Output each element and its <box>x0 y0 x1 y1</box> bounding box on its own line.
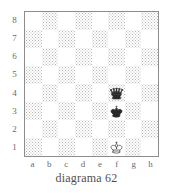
square-h1 <box>141 138 158 156</box>
square-g6 <box>125 48 142 66</box>
square-b8 <box>42 12 59 30</box>
square-g5 <box>125 66 142 84</box>
square-b5 <box>42 66 59 84</box>
square-c3 <box>58 102 75 120</box>
file-label-b: b <box>41 158 58 170</box>
chessboard <box>24 11 159 157</box>
file-label-f: f <box>108 158 125 170</box>
rank-label-column: 8 7 6 5 4 3 2 1 <box>7 11 22 157</box>
square-h8 <box>141 12 158 30</box>
square-c2 <box>58 120 75 138</box>
square-f7 <box>108 30 125 48</box>
square-f5 <box>108 66 125 84</box>
square-c1 <box>58 138 75 156</box>
square-g2 <box>125 120 142 138</box>
square-f2 <box>108 120 125 138</box>
square-c4 <box>58 84 75 102</box>
square-h4 <box>141 84 158 102</box>
rank-label-3: 3 <box>7 102 22 120</box>
rank-label-1: 1 <box>7 139 22 157</box>
white-king-icon <box>108 138 125 156</box>
square-g1 <box>125 138 142 156</box>
rank-label-4: 4 <box>7 84 22 102</box>
square-a7 <box>25 30 42 48</box>
square-d8 <box>75 12 92 30</box>
square-b3 <box>42 102 59 120</box>
square-e4 <box>92 84 109 102</box>
file-label-e: e <box>92 158 109 170</box>
square-f4 <box>108 84 125 102</box>
square-b7 <box>42 30 59 48</box>
file-label-h: h <box>142 158 159 170</box>
square-g3 <box>125 102 142 120</box>
square-c5 <box>58 66 75 84</box>
square-d2 <box>75 120 92 138</box>
square-c8 <box>58 12 75 30</box>
square-c7 <box>58 30 75 48</box>
square-e7 <box>92 30 109 48</box>
square-e8 <box>92 12 109 30</box>
rank-label-2: 2 <box>7 121 22 139</box>
square-b6 <box>42 48 59 66</box>
square-a2 <box>25 120 42 138</box>
file-label-row: a b c d e f g h <box>24 158 159 170</box>
square-d4 <box>75 84 92 102</box>
square-e2 <box>92 120 109 138</box>
rank-label-7: 7 <box>7 29 22 47</box>
rank-label-8: 8 <box>7 11 22 29</box>
diagram-caption: diagrama 62 <box>0 172 173 184</box>
square-g4 <box>125 84 142 102</box>
square-b2 <box>42 120 59 138</box>
square-d5 <box>75 66 92 84</box>
file-label-c: c <box>58 158 75 170</box>
square-d6 <box>75 48 92 66</box>
square-f1 <box>108 138 125 156</box>
square-a6 <box>25 48 42 66</box>
square-a4 <box>25 84 42 102</box>
square-f6 <box>108 48 125 66</box>
black-queen-icon <box>108 84 125 102</box>
chessboard-grid <box>25 12 158 156</box>
square-a3 <box>25 102 42 120</box>
square-g8 <box>125 12 142 30</box>
square-f8 <box>108 12 125 30</box>
square-a1 <box>25 138 42 156</box>
square-f3 <box>108 102 125 120</box>
square-h7 <box>141 30 158 48</box>
square-e6 <box>92 48 109 66</box>
rank-label-5: 5 <box>7 66 22 84</box>
square-d7 <box>75 30 92 48</box>
square-e5 <box>92 66 109 84</box>
square-h6 <box>141 48 158 66</box>
file-label-d: d <box>75 158 92 170</box>
square-a8 <box>25 12 42 30</box>
rank-label-6: 6 <box>7 48 22 66</box>
square-g7 <box>125 30 142 48</box>
square-d1 <box>75 138 92 156</box>
square-e3 <box>92 102 109 120</box>
square-d3 <box>75 102 92 120</box>
file-label-a: a <box>24 158 41 170</box>
square-e1 <box>92 138 109 156</box>
square-c6 <box>58 48 75 66</box>
square-h2 <box>141 120 158 138</box>
square-a5 <box>25 66 42 84</box>
square-h5 <box>141 66 158 84</box>
square-b1 <box>42 138 59 156</box>
square-b4 <box>42 84 59 102</box>
file-label-g: g <box>125 158 142 170</box>
black-king-icon <box>108 102 125 120</box>
chess-diagram-figure: 8 7 6 5 4 3 2 1 a b c d e f g h diagrama… <box>0 0 173 193</box>
square-h3 <box>141 102 158 120</box>
